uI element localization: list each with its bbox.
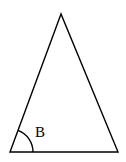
triangle-diagram: B [0,0,126,162]
triangle [10,14,118,152]
angle-label-b: B [35,124,45,140]
angle-arc-b [18,130,33,152]
